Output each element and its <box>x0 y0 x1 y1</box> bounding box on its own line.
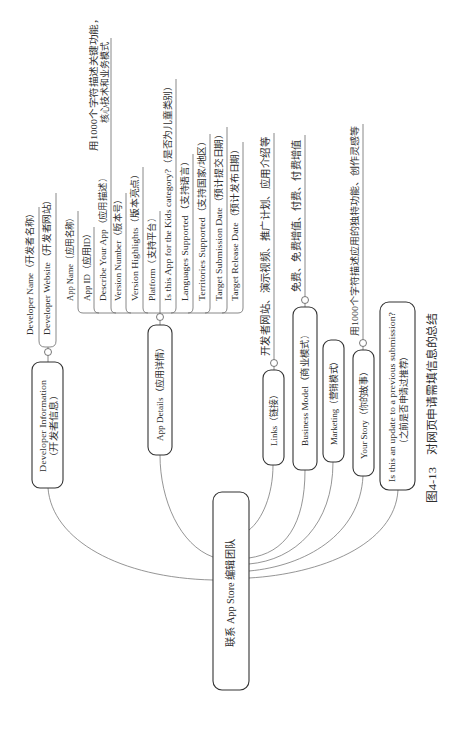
target-submission-date-label: Target Submission Date（预计提交日期） <box>213 129 224 301</box>
central-node-label: 联系 App Store 编辑团队 <box>224 539 236 647</box>
branch-your-story: 用1000个字符描述应用的独特功能、创作灵感等 Your Story（你的故事） <box>349 124 374 476</box>
collapse-toggle-icon <box>302 297 309 304</box>
developer-information-label: Developer Information <box>38 379 48 472</box>
links-note: 开发者网站、演示视频、推广计划、应用介绍等 <box>259 137 271 356</box>
collapse-toggle-icon <box>157 314 164 321</box>
branch-business-model: 免费、免费增值、付费、付费增值 Business Model（商业模式） <box>290 135 317 470</box>
marketing-label: Marketing（营销模式） <box>328 357 339 445</box>
app-details-label: App Details（应用详情） <box>154 343 165 441</box>
developer-name-label: Developer Name（开发者名称） <box>24 209 35 335</box>
target-release-date-label: Target Release Date（预计发布日期） <box>229 144 240 301</box>
connector-previous-submission <box>249 490 398 578</box>
connector-your-story <box>249 476 363 571</box>
your-story-label: Your Story（你的故事） <box>358 367 369 459</box>
your-story-note: 用1000个字符描述应用的独特功能、创作灵感等 <box>349 126 360 336</box>
branch-developer-information: Developer Name（开发者名称） Developer Website（… <box>24 193 63 488</box>
developer-website-label: Developer Website（开发者网站） <box>41 195 52 335</box>
connector-business-model <box>249 470 305 558</box>
business-model-label: Business Model（商业模式） <box>299 330 310 446</box>
describe-note-line1: 用1000个字符描述关键功能， <box>88 14 99 151</box>
connector-developer-information <box>48 488 213 580</box>
figure-number: 图4-13 <box>426 466 438 503</box>
links-label: Links（链接） <box>268 390 279 446</box>
connector-marketing <box>249 462 333 564</box>
app-id-label: App ID（应用ID） <box>81 229 92 301</box>
branch-links: 开发者网站、演示视频、推广计划、应用介绍等 Links（链接） <box>259 133 284 465</box>
territories-supported-label: Territories Supported（支持国家/地区） <box>196 136 207 301</box>
version-highlights-label: Version Highlights（版本亮点） <box>129 169 140 301</box>
figure-title: 对网页申请需填信息的总结 <box>425 313 438 455</box>
version-number-label: Version Number（版本号） <box>112 195 123 301</box>
previous-submission-label: Is this an update to a previous submissi… <box>387 312 397 482</box>
figure-caption: 图4-13 对网页申请需填信息的总结 <box>425 313 438 503</box>
collapse-toggle-icon <box>271 360 278 367</box>
describe-your-app-label: Describe Your App（应用描述） <box>97 173 108 301</box>
mind-map-diagram: 联系 App Store 编辑团队 Developer Name（开发者名称） … <box>0 0 463 735</box>
languages-supported-label: Languages Supported（支持语言） <box>179 156 190 301</box>
platform-label: Platform（支持平台） <box>146 213 157 301</box>
previous-submission-label-cn: （之前是否申请过推荐） <box>398 352 409 448</box>
developer-information-label-cn: （开发者信息） <box>48 390 59 462</box>
connector-links <box>249 465 273 530</box>
branch-app-details: App Name（应用名称） App ID（应用ID） Describe You… <box>64 14 243 456</box>
previous-submission-node <box>380 302 415 490</box>
branch-previous-submission: Is this an update to a previous submissi… <box>380 302 415 490</box>
describe-note-line2: 核心技术和业务模式 <box>99 42 110 123</box>
kids-category-label: Is this App for the Kids category?（是否为儿童… <box>162 81 173 301</box>
business-model-note: 免费、免费增值、付费、付费增值 <box>290 140 302 292</box>
branch-marketing: Marketing（营销模式） <box>323 340 344 462</box>
central-node: 联系 App Store 编辑团队 <box>213 492 249 690</box>
collapse-toggle-icon <box>360 340 367 347</box>
connector-app-details <box>160 455 213 557</box>
collapse-toggle-icon <box>45 349 52 356</box>
app-name-label: App Name（应用名称） <box>64 213 75 301</box>
